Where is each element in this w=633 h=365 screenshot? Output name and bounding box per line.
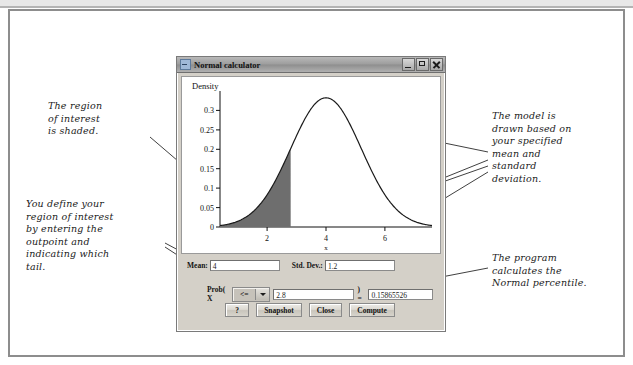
snapshot-button[interactable]: Snapshot bbox=[256, 303, 302, 317]
annotation-model-drawn: The model is drawn based on your specifi… bbox=[492, 110, 622, 186]
density-chart-panel: Density 0 0.05 0.1 0.15 0.2 0.25 bbox=[181, 76, 441, 254]
mean-sd-row: Mean: 4 Std. Dev.: 1.2 bbox=[187, 259, 433, 272]
help-button[interactable]: ? bbox=[225, 303, 249, 317]
ytick-3: 0.15 bbox=[200, 165, 214, 174]
std-dev-input[interactable]: 1.2 bbox=[325, 260, 395, 271]
ytick-5: 0.25 bbox=[200, 126, 214, 135]
page-border-bottom bbox=[8, 355, 625, 357]
close-button[interactable]: Close bbox=[309, 303, 343, 317]
page-border-right bbox=[623, 9, 625, 357]
annotation-program-calculates: The program calculates the Normal percen… bbox=[492, 252, 632, 290]
tail-operator-dropdown[interactable]: <= bbox=[232, 287, 270, 302]
xtick-6: 6 bbox=[383, 234, 387, 243]
xtick-2: 2 bbox=[265, 234, 269, 243]
probability-row: Prob( X <= 2.8 ) = 0.15865526 bbox=[207, 285, 433, 303]
compute-button[interactable]: Compute bbox=[349, 303, 395, 317]
ytick-0: 0 bbox=[210, 223, 214, 232]
window-title: Normal calculator bbox=[194, 60, 401, 70]
ytick-2: 0.1 bbox=[204, 184, 214, 193]
mean-label: Mean: bbox=[187, 261, 208, 270]
ytick-1: 0.05 bbox=[200, 204, 214, 213]
chevron-down-icon bbox=[255, 289, 269, 300]
page-border-left bbox=[8, 9, 10, 357]
annotation-define-region: You define your region of interest by en… bbox=[26, 198, 176, 274]
prob-prefix-label: Prob( X bbox=[207, 285, 230, 303]
tail-operator-value: <= bbox=[233, 290, 255, 299]
xtick-4: 4 bbox=[324, 234, 328, 243]
close-icon[interactable] bbox=[430, 58, 443, 71]
annotation-region-shaded: The region of interest is shaded. bbox=[48, 100, 170, 138]
equals-label: ) = bbox=[357, 285, 365, 303]
minimize-icon[interactable] bbox=[402, 58, 415, 71]
ytick-4: 0.2 bbox=[204, 145, 214, 154]
page-border-top bbox=[8, 9, 625, 11]
chart-ylabel: Density bbox=[192, 81, 219, 91]
cutpoint-input[interactable]: 2.8 bbox=[273, 289, 354, 300]
ytick-6: 0.3 bbox=[204, 106, 214, 115]
maximize-icon[interactable] bbox=[416, 58, 429, 71]
shaded-region bbox=[220, 149, 291, 227]
window-titlebar[interactable]: Normal calculator bbox=[177, 57, 445, 73]
result-output[interactable]: 0.15865526 bbox=[368, 289, 433, 300]
density-curve bbox=[220, 98, 432, 226]
page-top-band-shadow bbox=[0, 6, 633, 8]
button-row: ? Snapshot Close Compute bbox=[181, 303, 439, 317]
chart-xlabel: x bbox=[324, 244, 328, 252]
normal-calculator-window: Normal calculator Density 0 bbox=[176, 56, 446, 332]
application-icon bbox=[180, 59, 191, 70]
std-dev-label: Std. Dev.: bbox=[292, 261, 323, 270]
mean-input[interactable]: 4 bbox=[210, 260, 280, 271]
